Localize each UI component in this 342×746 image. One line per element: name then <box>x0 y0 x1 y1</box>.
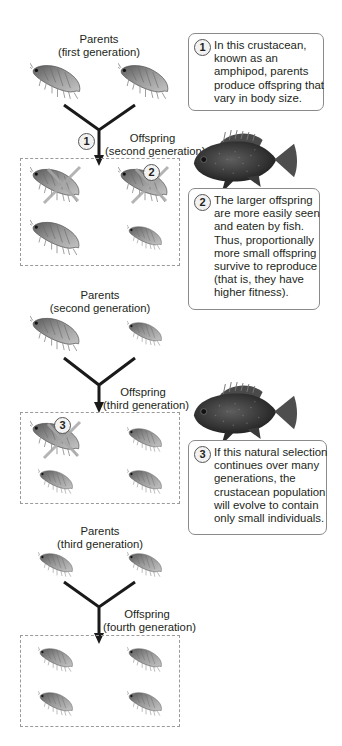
offspring-label-line1: Offspring <box>103 608 191 621</box>
amphipod-icon <box>127 644 165 674</box>
amphipod-icon <box>38 688 76 718</box>
amphipod-icon <box>38 644 76 674</box>
offspring-label-gen4: Offspring (fourth generation) <box>103 608 191 634</box>
amphipod-icon <box>127 688 165 718</box>
offspring-label-line2: (fourth generation) <box>103 621 191 634</box>
